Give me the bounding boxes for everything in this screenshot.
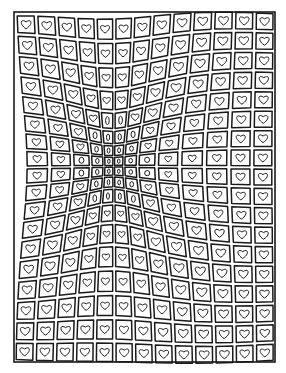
grid-cell bbox=[19, 57, 38, 76]
grid-cell bbox=[188, 74, 208, 93]
heart-icon bbox=[42, 22, 52, 30]
oval-icon bbox=[118, 148, 121, 153]
grid-cell bbox=[149, 60, 167, 82]
grid-cell bbox=[153, 15, 171, 36]
grid-cell bbox=[139, 168, 155, 180]
heart-icon bbox=[26, 245, 35, 253]
grid-cell bbox=[50, 137, 70, 152]
oval-icon bbox=[95, 146, 99, 152]
heart-icon bbox=[165, 172, 172, 178]
grid-cell bbox=[133, 273, 149, 295]
heart-icon bbox=[169, 104, 178, 112]
heart-icon bbox=[259, 231, 268, 239]
grid-cell bbox=[207, 187, 227, 204]
heart-icon bbox=[219, 330, 229, 338]
grid-cell bbox=[77, 320, 94, 339]
heart-icon bbox=[240, 330, 250, 338]
heart-icon bbox=[192, 100, 201, 108]
heart-icon bbox=[220, 351, 230, 359]
heart-icon bbox=[148, 109, 157, 117]
grid-cell bbox=[88, 191, 102, 207]
grid-cell bbox=[81, 65, 97, 86]
heart-icon bbox=[28, 225, 37, 233]
grid-cell bbox=[116, 320, 132, 340]
grid-cell bbox=[194, 12, 212, 30]
heart-icon bbox=[119, 254, 127, 260]
heart-icon bbox=[56, 141, 64, 148]
grid-cell bbox=[22, 220, 43, 239]
heart-icon bbox=[83, 279, 92, 286]
grid-cell bbox=[182, 133, 203, 149]
grid-cell bbox=[254, 188, 272, 204]
heart-icon bbox=[134, 234, 142, 241]
oval-icon bbox=[145, 171, 150, 176]
grid-cell bbox=[19, 259, 38, 278]
heart-icon bbox=[157, 306, 166, 314]
grid-cell bbox=[144, 211, 162, 231]
heart-icon bbox=[85, 72, 94, 79]
heart-icon bbox=[74, 199, 82, 206]
heart-icon bbox=[260, 290, 269, 298]
grid-cell bbox=[18, 280, 36, 299]
heart-icon bbox=[258, 193, 267, 201]
heart-icon bbox=[24, 62, 34, 70]
heart-icon bbox=[151, 89, 160, 97]
heart-icon bbox=[239, 17, 249, 25]
oval-icon bbox=[96, 158, 100, 163]
grid-cell bbox=[125, 167, 137, 177]
heart-icon bbox=[177, 308, 187, 316]
heart-icon bbox=[100, 326, 109, 334]
heart-icon bbox=[26, 83, 35, 91]
heart-icon bbox=[239, 270, 249, 278]
grid-cell bbox=[92, 167, 103, 177]
grid-cell bbox=[97, 296, 113, 316]
oval-icon bbox=[118, 193, 121, 200]
grid-cell bbox=[24, 202, 45, 220]
grid-cell bbox=[58, 17, 75, 37]
grid-cell bbox=[208, 112, 228, 129]
heart-icon bbox=[118, 97, 125, 103]
grid-cell bbox=[17, 16, 35, 34]
grid-cell bbox=[72, 140, 89, 154]
grid-cell bbox=[18, 36, 37, 54]
grid-cell bbox=[50, 182, 70, 198]
grid-cell bbox=[233, 92, 252, 109]
grid-cell bbox=[169, 56, 188, 77]
oval-icon bbox=[107, 180, 110, 185]
grid-cell bbox=[167, 236, 187, 257]
grid-cell bbox=[133, 40, 149, 62]
grid-cell bbox=[99, 68, 113, 88]
grid-cell bbox=[83, 88, 98, 108]
grid-cell bbox=[115, 157, 123, 166]
heart-icon bbox=[137, 47, 146, 55]
grid-cell bbox=[105, 157, 113, 165]
grid-cell bbox=[159, 135, 179, 151]
grid-cell bbox=[255, 227, 273, 243]
grid-cell bbox=[101, 113, 112, 129]
grid-cell bbox=[79, 272, 95, 293]
heart-icon bbox=[259, 57, 268, 65]
grid-cell bbox=[216, 326, 233, 343]
heart-icon bbox=[131, 114, 139, 121]
oval-icon bbox=[130, 182, 134, 187]
heart-icon bbox=[50, 221, 59, 229]
grid-cell bbox=[96, 343, 112, 362]
heart-icon bbox=[260, 329, 269, 337]
heart-icon bbox=[77, 184, 84, 190]
heart-icon bbox=[60, 348, 70, 356]
heart-icon bbox=[145, 143, 151, 148]
heart-icon bbox=[45, 262, 55, 270]
grid-cell bbox=[27, 152, 48, 166]
grid-cell bbox=[78, 296, 95, 316]
grid-cell bbox=[48, 198, 68, 216]
grid-cell bbox=[103, 131, 113, 144]
heart-icon bbox=[30, 207, 39, 214]
grid-cell bbox=[207, 169, 227, 185]
heart-icon bbox=[159, 350, 169, 358]
grid-cell bbox=[92, 156, 103, 166]
grid-cell bbox=[256, 33, 273, 50]
heart-icon bbox=[178, 330, 188, 338]
heart-icon bbox=[22, 41, 32, 49]
heart-icon bbox=[89, 213, 96, 219]
heart-icon bbox=[165, 156, 172, 162]
